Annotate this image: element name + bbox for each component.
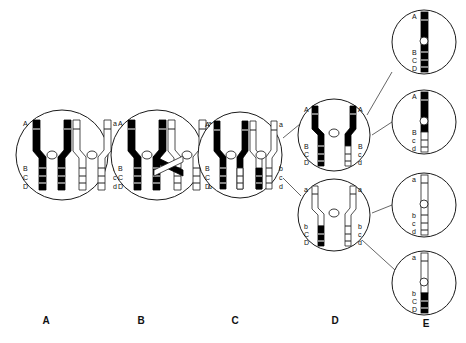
stage-label-d: D [325,315,345,326]
allele-label: D [304,159,309,166]
allele-label: a [358,186,362,193]
allele-label: B [23,165,28,172]
allele-label: B [304,143,309,150]
allele-label: D [412,306,417,313]
connector-d-lower-to-e3 [372,205,392,213]
allele-label: a [412,176,416,183]
allele-label: C [205,174,210,181]
stage-label-a: A [36,315,56,326]
allele-label: b [279,165,283,172]
allele-label: d [412,228,416,235]
connector-c-to-d-upper [283,124,300,138]
allele-label: c [358,151,362,158]
allele-label: c [412,220,416,227]
cell-e-4: a b C D [392,251,456,315]
allele-label: d [113,183,117,190]
allele-label: C [412,298,417,305]
stage-label-b: B [131,315,151,326]
allele-label: c [279,174,283,181]
centromere [226,151,236,159]
allele-label: A [23,120,28,127]
centromere [256,151,266,159]
centromere [420,117,428,125]
connector-d-upper-to-e1 [367,72,392,115]
allele-label: C [304,151,309,158]
recombinant-segment [345,146,351,166]
cell-a: A B C D a b c d [16,110,117,200]
allele-label: d [279,183,283,190]
centromere [47,151,57,159]
cell-d-lower: a b C D a b c d [298,179,370,251]
allele-label: a [412,254,416,261]
allele-label: B [358,143,363,150]
centromere [329,129,339,137]
allele-label: A [304,106,309,113]
allele-label: C [23,174,28,181]
connector-d-upper-to-e2 [372,122,392,135]
allele-label: d [358,239,362,246]
allele-label: D [23,183,28,190]
recombinant-segment [318,226,324,246]
allele-label: a [279,121,283,128]
allele-label: D [118,183,123,190]
meiosis-diagram: A B C D a b c d [0,0,466,343]
allele-label: d [412,145,416,152]
allele-label: C [118,174,123,181]
allele-label: d [358,159,362,166]
recombinant-segment [256,168,262,189]
figure-canvas: A B C D a b c d [0,0,466,343]
centromere [420,278,428,286]
allele-label: c [412,137,416,144]
cell-d-upper: A B C D A B c d [298,99,370,171]
stage-label-c: C [225,315,245,326]
allele-label: A [412,13,417,20]
chromatid [421,253,428,293]
stage-label-e: E [416,318,436,329]
allele-label: D [412,65,417,72]
allele-label: b [358,223,362,230]
centromere [142,151,152,159]
allele-label: B [205,165,210,172]
connector-c-to-d-lower [283,178,301,196]
cell-e-3: a b c d [392,173,456,237]
allele-label: D [205,183,210,190]
centromere [329,209,339,217]
cell-c: A B C D a b c d [198,112,283,198]
allele-label: a [113,120,117,127]
recombinant-segment [421,293,428,313]
allele-label: A [205,121,210,128]
centromere [420,37,428,45]
cell-e-2: A B c d [392,90,456,154]
allele-label: C [412,57,417,64]
allele-label: a [304,186,308,193]
allele-label: b [412,212,416,219]
cell-b: A B C D a b c d [111,110,212,200]
allele-label: b [412,290,416,297]
chromatid [421,92,428,132]
centromere [182,151,192,159]
allele-label: b [304,223,308,230]
allele-label: D [304,239,309,246]
allele-label: B [412,49,417,56]
cell-e-1: A B C D [392,10,456,74]
recombinant-segment [421,132,428,152]
allele-label: A [358,106,363,113]
allele-label: A [412,93,417,100]
centromere [87,151,97,159]
allele-label: A [118,120,123,127]
connector-d-lower-to-e4 [362,240,395,270]
centromere [420,200,428,208]
allele-label: c [358,231,362,238]
allele-label: C [304,231,309,238]
allele-label: B [412,129,417,136]
recombinant-segment [237,168,243,189]
allele-label: B [118,165,123,172]
